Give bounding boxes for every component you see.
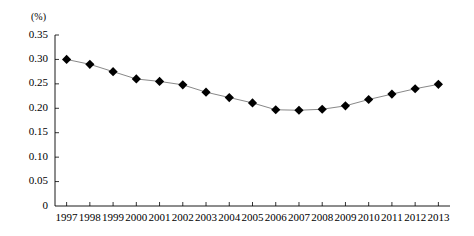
y-axis-unit-label: (%)	[31, 11, 46, 23]
data-point-marker	[225, 93, 234, 102]
x-tick-label: 2001	[149, 211, 171, 223]
data-point-marker	[155, 77, 164, 86]
y-tick-label: 0.05	[29, 174, 49, 186]
data-point-marker	[271, 105, 280, 114]
y-tick-label: 0.15	[29, 125, 49, 137]
y-tick-label: 0.25	[29, 76, 49, 88]
data-point-marker	[364, 95, 373, 104]
data-point-marker	[318, 105, 327, 114]
y-tick-label: 0	[43, 199, 49, 211]
x-tick-label: 1999	[102, 211, 125, 223]
x-tick-label: 1997	[56, 211, 79, 223]
data-point-marker	[434, 80, 443, 89]
x-tick-label: 2006	[265, 211, 288, 223]
x-tick-label: 2004	[218, 211, 241, 223]
x-tick-label: 2000	[125, 211, 148, 223]
chart-container: (%)00.050.100.150.200.250.300.3519971998…	[0, 0, 474, 236]
x-tick-label: 2009	[334, 211, 357, 223]
data-point-marker	[178, 80, 187, 89]
data-point-marker	[108, 67, 117, 76]
data-point-marker	[201, 88, 210, 97]
data-point-marker	[132, 74, 141, 83]
x-tick-label: 2008	[311, 211, 334, 223]
y-tick-label: 0.10	[29, 150, 49, 162]
x-tick-label: 1998	[79, 211, 102, 223]
x-tick-label: 2005	[242, 211, 265, 223]
data-point-marker	[341, 101, 350, 110]
data-point-marker	[411, 84, 420, 93]
data-point-marker	[248, 98, 257, 107]
y-tick-label: 0.30	[29, 52, 49, 64]
x-tick-label: 2010	[358, 211, 381, 223]
x-tick-label: 2002	[172, 211, 194, 223]
x-tick-label: 2013	[427, 211, 450, 223]
data-point-marker	[85, 60, 94, 69]
x-tick-label: 2011	[381, 211, 403, 223]
y-tick-label: 0.20	[29, 101, 49, 113]
data-point-marker	[294, 106, 303, 115]
data-point-marker	[62, 55, 71, 64]
y-tick-label: 0.35	[29, 28, 49, 40]
line-chart: (%)00.050.100.150.200.250.300.3519971998…	[0, 0, 474, 236]
x-tick-label: 2003	[195, 211, 218, 223]
x-tick-label: 2007	[288, 211, 311, 223]
data-point-marker	[387, 90, 396, 99]
x-tick-label: 2012	[404, 211, 426, 223]
